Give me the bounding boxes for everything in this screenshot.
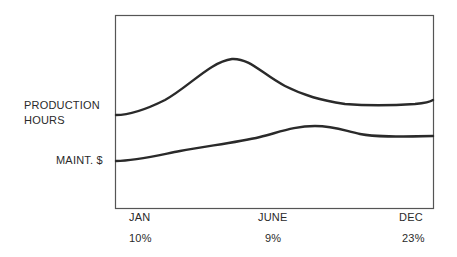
pct-jan: 10% xyxy=(129,232,152,245)
legend-maint: MAINT. $ xyxy=(56,154,103,167)
legend-production-line1: PRODUCTION xyxy=(24,99,100,112)
x-tick-jan: JAN xyxy=(129,211,150,224)
pct-dec: 23% xyxy=(402,232,425,245)
pct-june: 9% xyxy=(265,232,281,245)
x-tick-june: JUNE xyxy=(258,211,288,224)
x-tick-dec: DEC xyxy=(399,211,423,224)
chart-plot xyxy=(0,0,457,257)
maint-dollars-line xyxy=(116,126,433,161)
chart-frame xyxy=(116,16,434,209)
production-hours-line xyxy=(116,59,433,115)
legend-production-line2: HOURS xyxy=(24,114,65,127)
